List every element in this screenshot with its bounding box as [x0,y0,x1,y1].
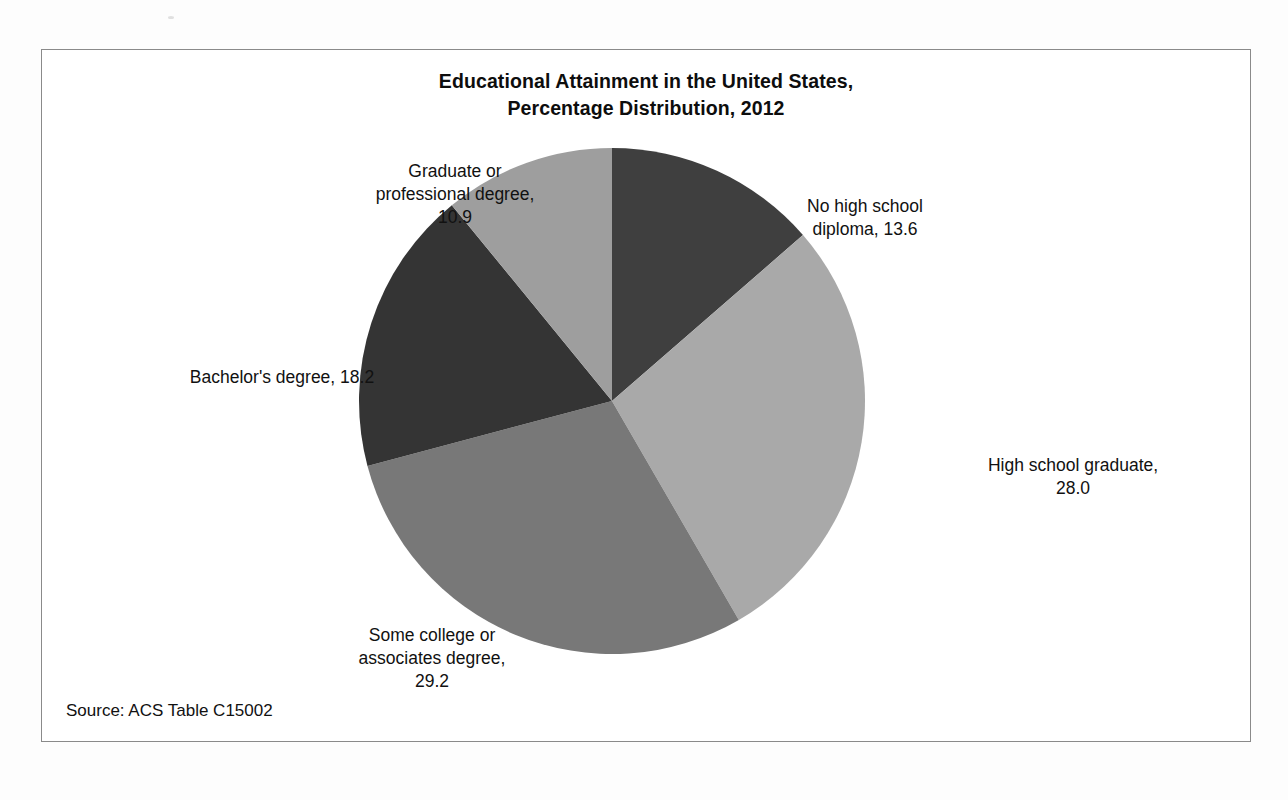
pie-chart-plot-area: No high school diploma, 13.6 High school… [42,50,1252,743]
chart-figure-frame: Educational Attainment in the United Sta… [41,49,1251,742]
source-note: Source: ACS Table C15002 [66,701,273,721]
pie-label-graduate-or-professional-degree: Graduate or professional degree, 10.9 [330,160,580,228]
pie-label-no-high-school-diploma: No high school diploma, 13.6 [760,195,970,241]
pie-label-some-college-or-associates-degree: Some college or associates degree, 29.2 [302,624,562,692]
scan-speckle [168,16,174,19]
pie-label-bachelors-degree: Bachelor's degree, 18.2 [152,366,412,389]
pie-label-high-school-graduate: High school graduate, 28.0 [942,454,1204,500]
